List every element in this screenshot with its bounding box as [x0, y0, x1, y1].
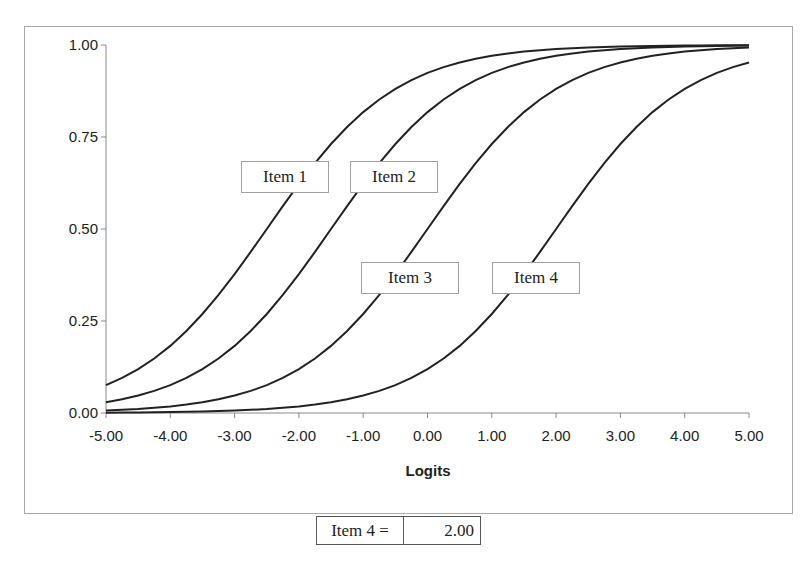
item-3-label: Item 3 — [361, 262, 459, 294]
y-tick-label: 0.25 — [38, 312, 98, 329]
item-4-curve — [106, 63, 749, 413]
curves — [106, 45, 749, 413]
x-tick-label: -2.00 — [264, 427, 334, 444]
item-3-curve — [106, 48, 749, 411]
y-tick-label: 1.00 — [38, 36, 98, 53]
item-difficulty-value[interactable]: 2.00 — [404, 517, 480, 544]
x-tick-label: 0.00 — [393, 427, 463, 444]
x-tick-label: -3.00 — [200, 427, 270, 444]
y-tick-label: 0.50 — [38, 220, 98, 237]
item-4-label: Item 4 — [492, 262, 580, 294]
item-1-label: Item 1 — [241, 161, 329, 193]
x-tick-label: 5.00 — [714, 427, 784, 444]
x-tick-label: -4.00 — [135, 427, 205, 444]
x-tick-label: 1.00 — [457, 427, 527, 444]
x-axis-label: Logits — [378, 462, 478, 479]
item-difficulty-label: Item 4 = — [317, 517, 404, 544]
y-tick-label: 0.00 — [38, 404, 98, 421]
item-1-curve — [106, 45, 749, 385]
item-2-curve — [106, 46, 749, 403]
x-tick-label: 4.00 — [650, 427, 720, 444]
x-tick-label: -5.00 — [71, 427, 141, 444]
x-tick-label: 3.00 — [585, 427, 655, 444]
y-tick-label: 0.75 — [38, 128, 98, 145]
item-2-label: Item 2 — [350, 161, 438, 193]
x-tick-label: -1.00 — [328, 427, 398, 444]
item-difficulty-input-row: Item 4 = 2.00 — [316, 516, 481, 545]
x-tick-label: 2.00 — [521, 427, 591, 444]
